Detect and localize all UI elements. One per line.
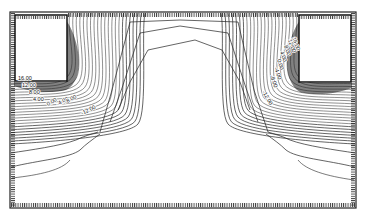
left-electrode [15, 15, 67, 81]
contour-plot-canvas: 16.0016.0012.0012.008.008.004.004.000.00… [0, 0, 366, 216]
contour-label-left-3: 4.00 [33, 96, 44, 102]
top-mesh-ticks [68, 13, 298, 17]
contour-label-left-2: 8.00 [29, 89, 40, 95]
contour-label-left-1: 12.00 [22, 82, 36, 88]
right-electrode [299, 15, 351, 82]
contour-figure: 16.0016.0012.0012.008.008.004.004.000.00… [0, 0, 366, 216]
bottom-mesh-ticks [11, 203, 355, 207]
contour-label-left-0: 16.00 [18, 75, 32, 81]
